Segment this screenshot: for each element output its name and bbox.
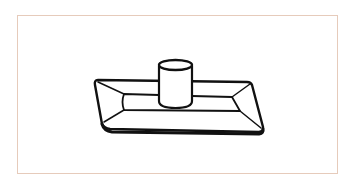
cylinder xyxy=(159,60,192,108)
tray-with-cylinder-drawing xyxy=(0,0,350,189)
